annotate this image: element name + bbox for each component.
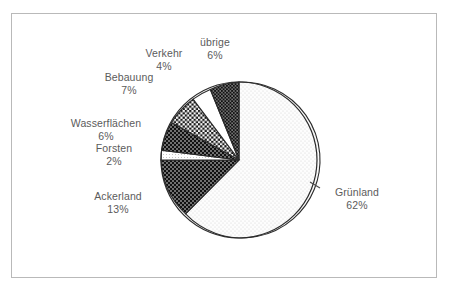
pie-label-uebrige-value: 6% xyxy=(185,49,245,62)
pie-label-uebrige: übrige 6% xyxy=(185,36,245,61)
pie-label-forsten-value: 2% xyxy=(78,155,150,168)
pie-label-bebauung-name: Bebauung xyxy=(98,71,160,84)
pie-label-ackerland-name: Ackerland xyxy=(80,190,156,203)
pie-label-forsten: Forsten 2% xyxy=(78,142,150,167)
pie-label-ackerland: Ackerland 13% xyxy=(80,190,156,215)
pie-label-gruenland: Grünland 62% xyxy=(322,186,392,211)
pie-label-bebauung: Bebauung 7% xyxy=(98,71,160,96)
pie-label-ackerland-value: 13% xyxy=(80,203,156,216)
pie-label-gruenland-value: 62% xyxy=(322,199,392,212)
pie-chart-figure: übrige 6% Verkehr 4% Bebauung 7% Wasserf… xyxy=(0,0,451,289)
pie-label-gruenland-name: Grünland xyxy=(322,186,392,199)
pie-label-bebauung-value: 7% xyxy=(98,84,160,97)
pie-label-forsten-name: Forsten xyxy=(78,142,150,155)
pie-label-uebrige-name: übrige xyxy=(185,36,245,49)
pie-label-verkehr-name: Verkehr xyxy=(134,47,194,60)
pie-label-wasserflaechen-name: Wasserflächen xyxy=(58,117,154,130)
pie-label-wasserflaechen-value: 6% xyxy=(58,130,154,143)
pie-label-wasserflaechen: Wasserflächen 6% xyxy=(58,117,154,142)
pie-label-verkehr: Verkehr 4% xyxy=(134,47,194,72)
